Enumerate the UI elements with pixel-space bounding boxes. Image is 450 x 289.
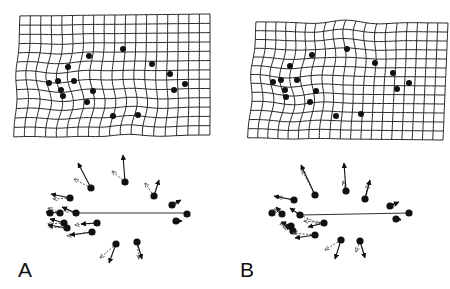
landmark-dot (72, 209, 79, 216)
landmark-dot (63, 224, 70, 231)
landmark-dot (150, 192, 157, 199)
landmark-dot (66, 194, 73, 201)
landmark-dot (333, 113, 339, 119)
solid-vector-arrow (123, 155, 125, 182)
grid-line (251, 110, 445, 113)
landmark-dot (320, 219, 327, 226)
grid-line (252, 92, 445, 96)
landmark-dot (358, 111, 364, 117)
grid-line (253, 57, 446, 59)
landmark-dot (112, 240, 119, 247)
landmark-dot (309, 52, 315, 58)
landmark-vectors-b (268, 163, 412, 259)
landmark-dot (60, 93, 66, 99)
grid-line (249, 120, 444, 123)
landmark-dot (311, 191, 318, 198)
landmark-dot (386, 202, 393, 209)
baseline (300, 213, 409, 215)
landmark-dot (121, 178, 128, 185)
grid-line (17, 97, 210, 101)
grid-line (248, 22, 256, 138)
landmark-dot (278, 210, 285, 217)
grid-line (16, 70, 210, 74)
landmark-dot (394, 86, 400, 92)
landmark-dot (390, 70, 396, 76)
landmark-dot (84, 99, 90, 105)
landmark-dot (149, 61, 155, 67)
landmark-dot (172, 217, 179, 224)
landmark-dot (356, 237, 363, 244)
grid-line (14, 16, 20, 137)
landmark-dot (183, 210, 190, 217)
grid-line (255, 48, 447, 50)
deformation-grid-b (248, 20, 448, 140)
landmark-dot (55, 78, 61, 84)
landmark-dot (372, 60, 378, 66)
landmark-vectors-a (46, 155, 191, 263)
landmark-dot (406, 80, 412, 86)
landmark-dot (110, 113, 116, 119)
landmark-dot (270, 79, 276, 85)
grid-line (255, 39, 447, 42)
landmark-dot (342, 187, 349, 194)
landmark-dot (58, 87, 64, 93)
landmark-dot (392, 215, 399, 222)
landmark-dot (182, 81, 188, 87)
landmark-dot (296, 211, 303, 218)
landmark-dot (313, 88, 319, 94)
panel-label-a: A (18, 258, 32, 282)
landmark-dot (71, 78, 77, 84)
landmark-dot (287, 63, 293, 69)
landmark-dot (311, 231, 318, 238)
grid-line (256, 20, 448, 24)
grid-line (120, 15, 126, 135)
landmark-dot (307, 99, 313, 105)
grid-line (248, 138, 443, 140)
landmark-dot (289, 227, 296, 234)
landmark-dot (405, 209, 412, 216)
landmark-dot (93, 219, 100, 226)
landmark-dot (337, 236, 344, 243)
deformation-grid-a (14, 14, 210, 137)
landmark-dot (282, 87, 288, 93)
landmark-dot (167, 71, 173, 77)
grid-line (14, 134, 210, 137)
grid-line (256, 29, 448, 33)
landmark-dot (87, 184, 94, 191)
landmark-dot (135, 112, 141, 118)
grid-line (248, 129, 443, 131)
landmark-dot (294, 77, 300, 83)
panel-label-b: B (240, 258, 254, 282)
landmark-dot (290, 196, 297, 203)
landmark-dot (133, 238, 140, 245)
landmark-dot (90, 88, 96, 94)
landmark-dot (344, 46, 350, 52)
landmark-dot (56, 209, 63, 216)
landmark-dot (46, 80, 52, 86)
grid-line (16, 106, 210, 110)
landmark-dot (65, 64, 71, 70)
landmark-dot (278, 77, 284, 83)
landmark-dot (168, 201, 175, 208)
grid-line (252, 101, 445, 105)
landmark-dot (120, 46, 126, 52)
landmark-dot (86, 53, 92, 59)
landmark-dot (268, 209, 275, 216)
landmark-dot (361, 195, 368, 202)
landmark-dot (171, 87, 177, 93)
grid-line (14, 125, 210, 128)
solid-vector-arrow (301, 165, 315, 195)
landmark-dot (88, 228, 95, 235)
figure-canvas (0, 0, 450, 289)
landmark-dot (283, 94, 289, 100)
grid-line (17, 88, 210, 92)
morphometrics-figure: A B (0, 0, 450, 289)
